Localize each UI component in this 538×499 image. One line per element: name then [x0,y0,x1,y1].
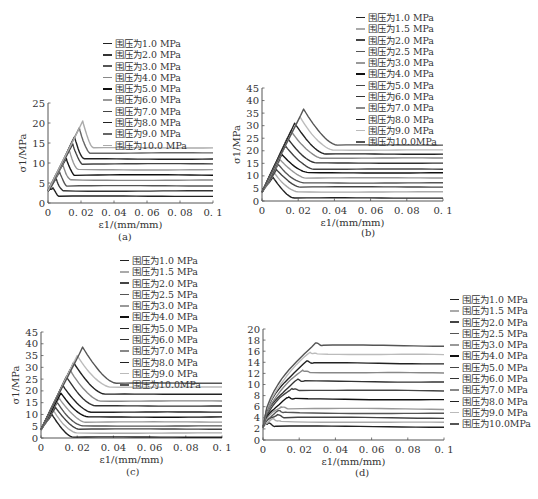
x-tick-label: 0. 08 [395,444,420,455]
legend-swatch-icon [120,328,129,330]
legend-label: 围压为8.0 MPa [132,357,198,368]
y-tick-label: 40 [25,338,38,349]
series-line [263,423,444,428]
legend-swatch-icon [356,130,365,132]
legend-swatch-icon [103,122,112,124]
y-tick-label: 10 [247,379,260,390]
legend-label: 围压为2.5 MPa [132,289,198,300]
x-axis-label: ε1/(mm/mm) [321,456,385,467]
y-tick-label: 16 [247,346,260,357]
x-tick-label: 0. 02 [286,444,311,455]
y-tick-label: 25 [246,133,259,144]
series-line [48,165,213,191]
y-tick-label: 10 [246,170,259,181]
legend-item: 围压为1.0 MPa [450,294,531,305]
legend-swatch-icon [356,73,365,75]
legend-swatch-icon [450,355,459,357]
x-tick-label: 0. 06 [137,442,162,453]
y-tick-label: 45 [246,83,259,94]
legend-item: 围压为8.0 MPa [356,114,437,125]
legend-label: 围压为9.0 MPa [115,128,181,139]
legend-label: 围压为6.0 MPa [462,373,528,384]
legend-label: 围压为9.0 MPa [132,368,198,379]
legend-label: 围压为3.0 MPa [368,57,434,68]
y-tick-label: 20 [25,385,38,396]
x-tick-label: 0. 06 [134,207,159,218]
legend-swatch-icon [120,350,129,352]
legend-swatch-icon [120,339,129,341]
y-tick-label: 5 [253,183,259,194]
legend-swatch-icon [120,316,129,318]
y-tick-label: 15 [32,138,45,149]
legend-label: 围压为1.0 MPa [368,12,434,23]
legend-item: 围压为7.0 MPa [120,345,201,356]
y-tick-label: 18 [247,335,260,346]
legend-label: 围压为7.0 MPa [462,384,528,395]
legend-swatch-icon [103,65,112,67]
legend-swatch-icon [120,362,129,364]
legend-item: 围压为1.5 MPa [120,266,201,277]
legend-label: 围压为2.5 MPa [462,328,528,339]
legend-swatch-icon [120,305,129,307]
y-axis-label: σ1/MPa [17,133,28,172]
legend-item: 围压为7.0 MPa [103,106,187,117]
legend-label: 围压为7.0 MPa [132,345,198,356]
legend-swatch-icon [356,28,365,30]
legend-swatch-icon [450,412,459,414]
x-tick-label: 0. 02 [285,205,310,216]
x-tick-label: 0. 02 [64,442,89,453]
series-line [263,379,444,428]
legend-item: 围压为2.0 MPa [356,35,437,46]
legend-swatch-icon [356,141,365,143]
x-tick-label: 0. 08 [173,442,198,453]
legend-label: 围压为1.5 MPa [368,23,434,34]
legend-item: 围压为8.0 MPa [103,117,187,128]
x-tick-label: 0. 1 [212,442,231,453]
legend-label: 围压为2.0 MPa [132,278,198,289]
legend-label: 围压为6.0 MPa [368,91,434,102]
x-tick-label: 0 [38,442,44,453]
legend-swatch-icon [450,321,459,323]
legend-item: 围压为2.0 MPa [120,278,201,289]
legend-item: 围压为1.5 MPa [450,305,531,316]
legend-label: 围压为1.0 MPa [462,294,528,305]
legend-label: 围压为5.0 MPa [132,323,198,334]
legend-label: 围压为4.0 MPa [115,72,181,83]
legend-item: 围压为3.0 MPa [120,300,201,311]
legend-swatch-icon [103,133,112,135]
y-tick-label: 40 [246,95,259,106]
y-tick-label: 35 [25,350,38,361]
y-tick-label: 20 [247,324,260,335]
legend-label: 围压为8.0 MPa [462,396,528,407]
y-tick-label: 30 [246,120,259,131]
legend-item: 围压为2.0 MPa [103,49,187,60]
y-tick-label: 12 [247,368,260,379]
legend-label: 围压为1.0 MPa [132,255,198,266]
y-tick-label: 14 [247,357,260,368]
legend-swatch-icon [120,282,129,284]
legend-label: 围压为3.0 MPa [115,61,181,72]
y-tick-label: 10 [25,409,38,420]
legend-swatch-icon [356,107,365,109]
x-tick-label: 0 [259,205,265,216]
legend-a: 围压为1.0 MPa围压为2.0 MPa围压为3.0 MPa围压为4.0 MPa… [103,38,187,151]
x-tick-label: 0 [45,207,51,218]
legend-item: 围压为4.0 MPa [103,72,187,83]
legend-label: 围压为2.5 MPa [368,46,434,57]
legend-label: 围压为4.0 MPa [368,68,434,79]
series-line [48,188,213,197]
panel-b: 05101520253035404500. 020. 040. 060. 080… [270,0,538,250]
legend-label: 围压为2.0 MPa [368,35,434,46]
x-tick-label: 0. 08 [394,205,419,216]
legend-label: 围压为2.0 MPa [115,49,181,60]
x-axis-label: ε1/(mm/mm) [98,219,162,230]
x-tick-label: 0. 02 [68,207,93,218]
y-tick-label: 20 [246,145,259,156]
legend-swatch-icon [103,111,112,113]
legend-item: 围压为6.0 MPa [356,91,437,102]
legend-label: 围压为5.0 MPa [368,80,434,91]
caption-b: (b) [361,227,375,238]
legend-label: 围压为4.0 MPa [132,311,198,322]
legend-swatch-icon [450,299,459,301]
legend-c: 围压为1.0 MPa围压为1.5 MPa围压为2.0 MPa围压为2.5 MPa… [120,255,201,391]
